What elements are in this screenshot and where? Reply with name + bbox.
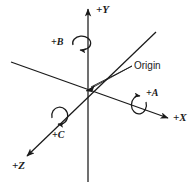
z-axis-line xyxy=(27,32,156,156)
rotation-arc-c xyxy=(52,107,68,124)
rotation-label-b: +B xyxy=(51,37,63,47)
origin-leader-lines xyxy=(86,66,132,92)
rotation-label-a: +A xyxy=(146,88,158,98)
axis-label-z: +Z xyxy=(12,160,25,171)
axis-label-x: +X xyxy=(173,112,187,123)
axes-drawing xyxy=(0,0,196,182)
rotation-label-c: +C xyxy=(52,130,64,140)
rotation-arc-a xyxy=(131,96,146,114)
coordinate-axis-diagram: +Y +X +Z +A +B +C Origin xyxy=(0,0,196,182)
origin-label: Origin xyxy=(134,61,161,71)
axis-label-y: +Y xyxy=(96,4,109,15)
